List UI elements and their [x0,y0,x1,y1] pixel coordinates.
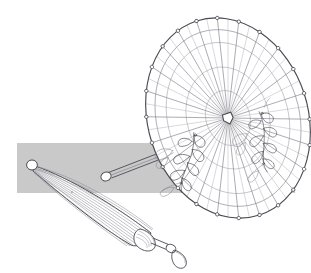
open-parasol [100,0,311,242]
furled-tip-finial [27,160,38,170]
open-parasol-canopy [118,0,311,242]
furled-collar [134,229,155,251]
furled-handle [151,238,186,268]
illustration-canvas [0,0,311,273]
parasol-illustration [0,0,311,273]
